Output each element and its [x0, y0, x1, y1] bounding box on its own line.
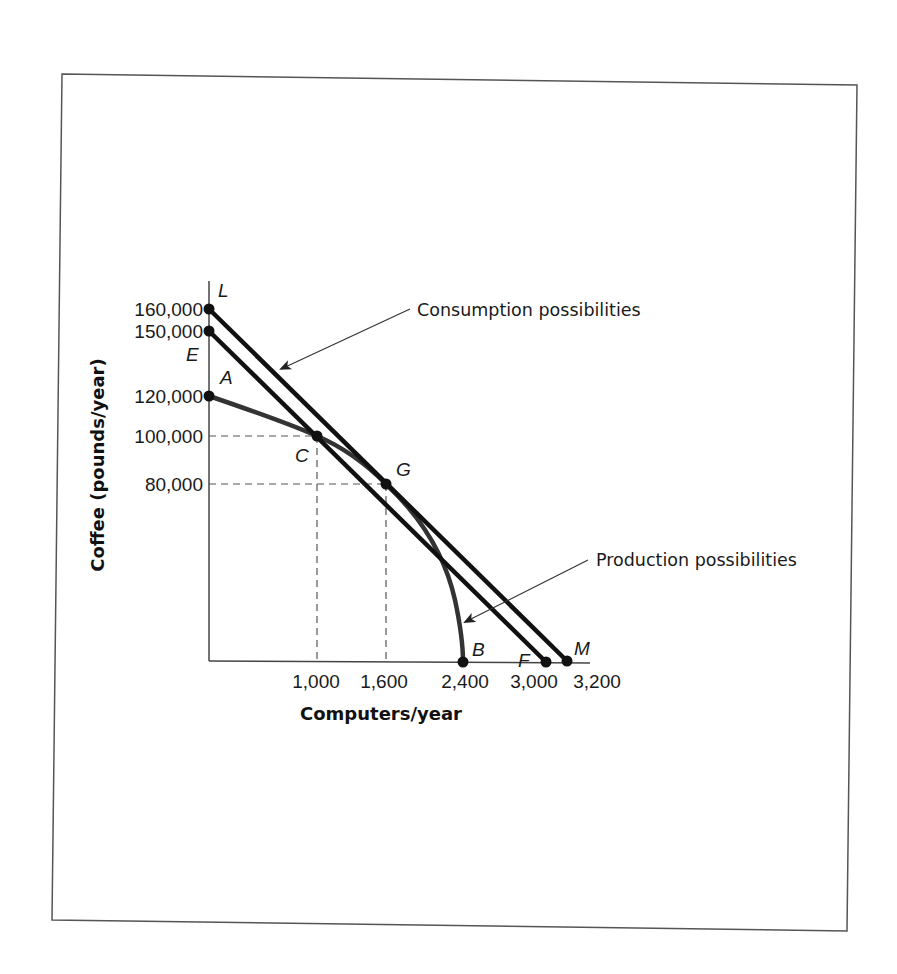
label-b: B — [472, 639, 485, 660]
point-l — [204, 304, 215, 315]
x-tick-1600: 1,600 — [360, 671, 408, 692]
annotation-consumption-possibilities: Consumption possibilities — [417, 300, 641, 320]
x-tick-3000: 3,000 — [510, 671, 558, 692]
label-l: L — [218, 280, 229, 301]
label-a: A — [219, 367, 233, 388]
point-a — [204, 391, 215, 402]
point-m — [562, 656, 573, 667]
y-tick-160000: 160,000 — [134, 299, 203, 320]
x-axis — [209, 661, 590, 663]
label-e: E — [186, 344, 199, 365]
arrow-consumption — [281, 309, 410, 369]
point-b — [458, 657, 469, 668]
label-g: G — [396, 459, 411, 480]
y-tick-80000: 80,000 — [145, 474, 203, 495]
label-m: M — [574, 638, 590, 659]
production-consumption-chart: L E A C G B F M 160,000 150,000 120,000 … — [0, 0, 897, 974]
x-tick-3200: 3,200 — [573, 671, 621, 692]
y-axis-title: Coffee (pounds/year) — [87, 358, 108, 571]
label-f: F — [518, 650, 531, 671]
point-c — [312, 431, 323, 442]
label-c: C — [295, 445, 309, 466]
y-tick-120000: 120,000 — [134, 386, 203, 407]
y-tick-100000: 100,000 — [134, 426, 203, 447]
arrow-production — [465, 560, 588, 622]
y-tick-150000: 150,000 — [134, 321, 203, 342]
point-f — [541, 657, 552, 668]
x-tick-1000: 1,000 — [292, 671, 340, 692]
x-tick-2400: 2,400 — [441, 671, 489, 692]
annotation-production-possibilities: Production possibilities — [596, 550, 797, 570]
point-e — [204, 326, 215, 337]
point-g — [381, 479, 392, 490]
x-axis-title: Computers/year — [300, 703, 462, 724]
figure-frame — [52, 74, 857, 931]
consumption-line-ef — [209, 331, 546, 662]
